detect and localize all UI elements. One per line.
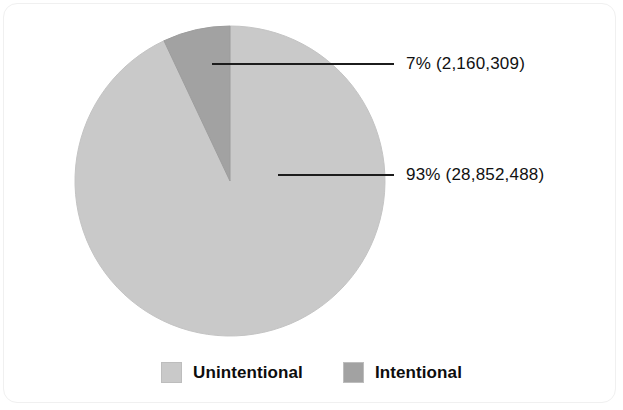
legend-swatch-unintentional bbox=[161, 362, 182, 383]
legend-item-unintentional[interactable]: Unintentional bbox=[161, 362, 303, 383]
legend-item-intentional[interactable]: Intentional bbox=[343, 362, 462, 383]
legend-label-intentional: Intentional bbox=[375, 363, 462, 383]
legend-label-unintentional: Unintentional bbox=[193, 363, 303, 383]
legend-swatch-intentional bbox=[343, 362, 364, 383]
pie-chart-figure: 7% (2,160,309) 93% (28,852,488) Unintent… bbox=[0, 0, 623, 410]
chart-legend: Unintentional Intentional bbox=[0, 362, 623, 383]
pie-chart-graphic bbox=[0, 0, 623, 410]
callout-label-intentional: 7% (2,160,309) bbox=[406, 54, 525, 74]
callout-label-unintentional: 93% (28,852,488) bbox=[406, 165, 544, 185]
